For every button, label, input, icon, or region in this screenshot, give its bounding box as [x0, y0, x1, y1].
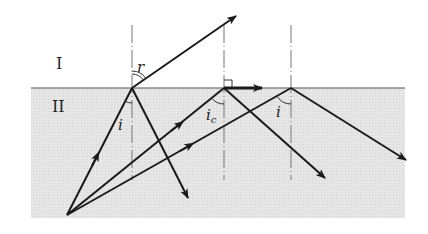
- angle-label-ic-sub: c: [211, 114, 217, 125]
- angle-label-i3: i: [276, 103, 281, 121]
- region-label-II: II: [52, 97, 65, 116]
- refraction-diagram: I II r i ic i: [0, 0, 428, 234]
- refracted-ray: [132, 16, 236, 88]
- angle-label-i1: i: [118, 116, 123, 134]
- angle-label-r: r: [137, 58, 145, 76]
- region-label-I: I: [56, 54, 62, 73]
